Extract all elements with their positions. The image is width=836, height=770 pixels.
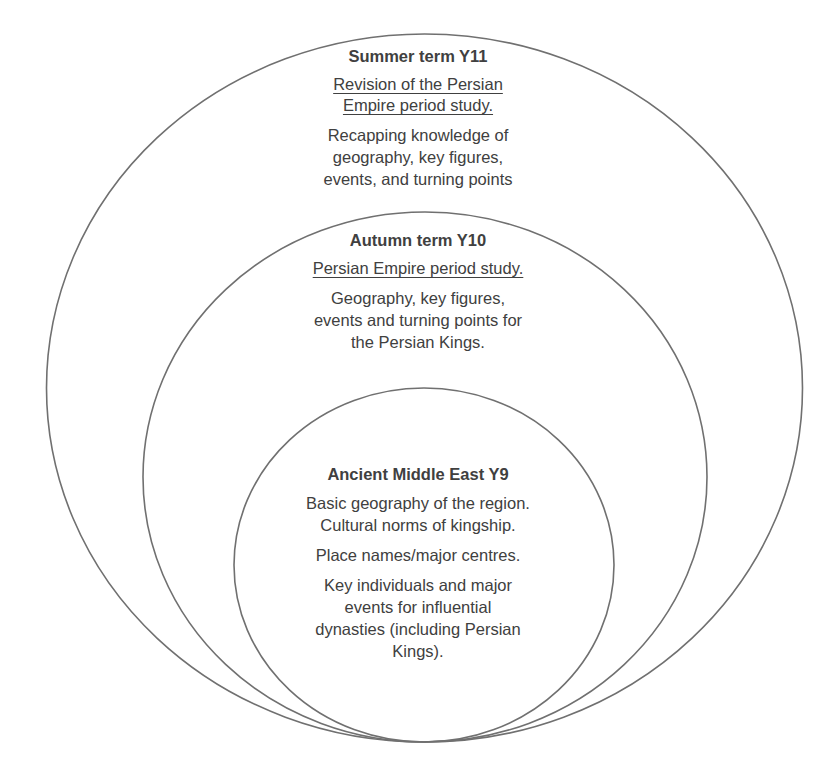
middle-ring-text: Autumn term Y10 Persian Empire period st… [0, 230, 836, 353]
inner-ring-paragraph: Place names/major centres. [0, 544, 836, 566]
inner-ring-paragraph: Key individuals and major events for inf… [0, 574, 836, 662]
inner-line: Key individuals and major [0, 574, 836, 596]
inner-ring-title: Ancient Middle East Y9 [0, 464, 836, 484]
middle-body-line: the Persian Kings. [0, 331, 836, 353]
inner-line: events for influential [0, 596, 836, 618]
outer-ring-subtitle: Revision of the Persian Empire period st… [0, 74, 836, 116]
outer-body-line: Recapping knowledge of [0, 124, 836, 146]
inner-line: Basic geography of the region. [0, 492, 836, 514]
outer-ring-title: Summer term Y11 [0, 46, 836, 66]
middle-body-line: events and turning points for [0, 309, 836, 331]
outer-ring-body: Recapping knowledge of geography, key fi… [0, 124, 836, 190]
inner-line: dynasties (including Persian [0, 618, 836, 640]
inner-ring-paragraph: Basic geography of the region. Cultural … [0, 492, 836, 536]
middle-subtitle-line: Persian Empire period study. [0, 258, 836, 279]
outer-ring-text: Summer term Y11 Revision of the Persian … [0, 46, 836, 190]
outer-subtitle-line: Revision of the Persian [0, 74, 836, 95]
outer-body-line: events, and turning points [0, 168, 836, 190]
inner-line: Place names/major centres. [0, 544, 836, 566]
middle-ring-body: Geography, key figures, events and turni… [0, 287, 836, 353]
outer-body-line: geography, key figures, [0, 146, 836, 168]
outer-subtitle-line: Empire period study. [0, 95, 836, 116]
inner-ring-text: Ancient Middle East Y9 Basic geography o… [0, 464, 836, 662]
middle-body-line: Geography, key figures, [0, 287, 836, 309]
inner-line: Kings). [0, 640, 836, 662]
middle-ring-subtitle: Persian Empire period study. [0, 258, 836, 279]
inner-line: Cultural norms of kingship. [0, 514, 836, 536]
middle-ring-title: Autumn term Y10 [0, 230, 836, 250]
